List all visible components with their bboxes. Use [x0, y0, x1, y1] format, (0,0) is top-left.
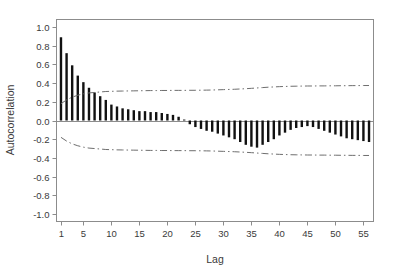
acf-bar — [334, 121, 336, 135]
acf-bar — [228, 121, 230, 138]
acf-bar — [284, 121, 286, 133]
x-tick-label: 5 — [81, 228, 86, 239]
acf-bar — [116, 106, 118, 120]
acf-bar — [312, 121, 314, 128]
y-tick-label: 0.0 — [36, 116, 49, 127]
acf-bar — [166, 114, 168, 121]
acf-bar — [121, 108, 123, 120]
acf-bar — [278, 121, 280, 136]
acf-bar — [351, 121, 353, 140]
y-tick-label: -0.2 — [33, 134, 49, 145]
autocorrelation-plot: 1.00.80.60.40.20.0-0.2-0.4-0.6-0.8-1.0 1… — [0, 0, 394, 272]
acf-bar — [306, 121, 308, 127]
acf-bar — [245, 121, 247, 145]
acf-bar — [161, 113, 163, 120]
x-tick-label: 15 — [134, 228, 145, 239]
acf-bar — [200, 121, 202, 129]
acf-bar — [194, 121, 196, 128]
acf-bar — [211, 121, 213, 132]
acf-bar — [205, 121, 207, 131]
acf-bar — [340, 121, 342, 137]
x-tick-label: 50 — [330, 228, 341, 239]
acf-bar — [323, 121, 325, 131]
x-tick-label: 35 — [246, 228, 257, 239]
acf-bar — [250, 121, 252, 147]
acf-bar — [60, 37, 62, 120]
y-tick-label: -1.0 — [33, 209, 49, 220]
acf-bar — [82, 82, 84, 120]
acf-bar — [177, 117, 179, 121]
y-tick-label: -0.6 — [33, 172, 49, 183]
acf-bar — [71, 65, 73, 120]
y-tick-label: 0.8 — [36, 41, 49, 52]
acf-bar — [295, 121, 297, 128]
x-axis-title: Lag — [206, 253, 224, 265]
acf-bar — [362, 121, 364, 142]
x-tick-label: 30 — [218, 228, 229, 239]
x-tick-label: 40 — [274, 228, 285, 239]
x-tick-label: 10 — [106, 228, 117, 239]
acf-bar — [65, 53, 67, 120]
acf-bar — [172, 115, 174, 121]
y-tick-label: 0.4 — [36, 78, 49, 89]
y-axis-title: Autocorrelation — [4, 85, 16, 156]
acf-bar — [357, 121, 359, 141]
acf-bar — [138, 111, 140, 120]
y-tick-label: -0.4 — [33, 153, 49, 164]
acf-bar — [77, 76, 79, 121]
acf-bar — [256, 121, 258, 148]
acf-bar — [110, 105, 112, 121]
acf-bar — [155, 112, 157, 120]
acf-bar — [233, 121, 235, 140]
acf-bar — [105, 100, 107, 121]
acf-figure: 1.00.80.60.40.20.0-0.2-0.4-0.6-0.8-1.0 1… — [0, 0, 394, 272]
y-tick-label: 1.0 — [36, 22, 49, 33]
acf-bar — [93, 92, 95, 120]
acf-bar — [144, 111, 146, 120]
acf-bar — [127, 109, 129, 120]
x-tick-label: 45 — [302, 228, 313, 239]
acf-bar — [345, 121, 347, 139]
x-tick-label: 1 — [59, 228, 64, 239]
acf-bar — [217, 121, 219, 134]
acf-bar — [222, 121, 224, 136]
y-tick-label: 0.6 — [36, 59, 49, 70]
x-tick-label: 20 — [162, 228, 173, 239]
acf-bar — [301, 121, 303, 128]
acf-bar — [267, 121, 269, 143]
y-tick-label: -0.8 — [33, 190, 49, 201]
y-axis-tick-labels: 1.00.80.60.40.20.0-0.2-0.4-0.6-0.8-1.0 — [33, 22, 49, 220]
x-tick-label: 55 — [358, 228, 369, 239]
acf-bar — [289, 121, 291, 130]
acf-bar — [239, 121, 241, 143]
acf-bar — [317, 121, 319, 129]
acf-bar — [368, 121, 370, 143]
acf-bar — [273, 121, 275, 140]
y-tick-label: 0.2 — [36, 97, 49, 108]
acf-bar — [99, 96, 101, 120]
acf-bar — [261, 121, 263, 145]
acf-bar — [329, 121, 331, 133]
acf-bar — [189, 121, 191, 125]
acf-bar — [149, 112, 151, 120]
acf-bar — [183, 120, 185, 121]
acf-bar — [133, 110, 135, 120]
x-tick-label: 25 — [190, 228, 201, 239]
